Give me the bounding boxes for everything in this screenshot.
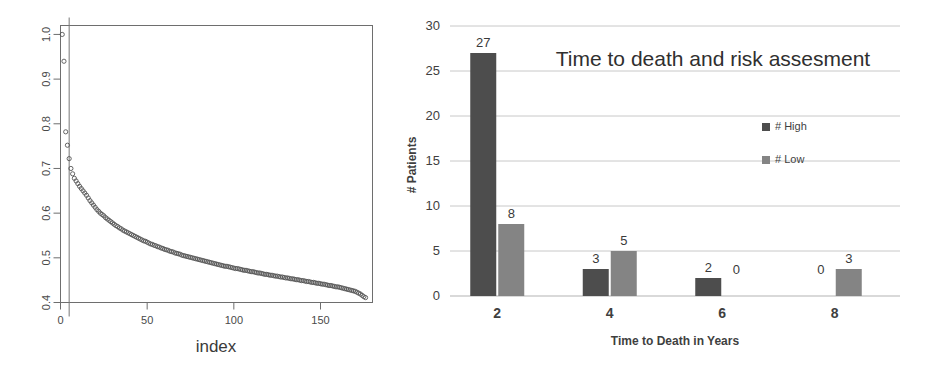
y-tick-label: 0.4 xyxy=(40,295,52,310)
bar-chart-y-axis: 051015202530 xyxy=(426,18,440,303)
y-tick-label: 0.9 xyxy=(40,71,52,86)
y-tick-label: 1.0 xyxy=(40,27,52,42)
bar-value-label: 8 xyxy=(508,206,515,221)
bar-chart-panel: 051015202530 278352003 2468 # Patients T… xyxy=(400,0,935,375)
bar-value-label: 2 xyxy=(705,260,712,275)
y-tick-label: 30 xyxy=(426,18,440,33)
x-tick-label: 0 xyxy=(57,314,63,326)
bar-chart-svg: 051015202530 278352003 2468 # Patients T… xyxy=(400,0,935,375)
y-tick-label: 15 xyxy=(426,153,440,168)
x-category-label: 8 xyxy=(831,305,839,321)
y-tick-label: 0 xyxy=(433,288,440,303)
plot-frame xyxy=(61,26,373,303)
bar xyxy=(695,278,721,296)
bar-chart-x-axis: 2468 xyxy=(493,305,839,321)
index-plot-y-axis: 0.40.50.60.70.80.91.0 xyxy=(40,27,60,310)
y-tick-label: 0.8 xyxy=(40,116,52,131)
data-point xyxy=(62,59,66,63)
bar-chart-ylabel: # Patients xyxy=(405,136,419,193)
index-plot-xlabel: index xyxy=(196,337,237,356)
bar-chart-bars: 278352003 xyxy=(470,35,862,296)
bar-chart-legend: # High# Low xyxy=(762,120,807,165)
x-tick-label: 150 xyxy=(311,314,329,326)
bar-value-label: 0 xyxy=(733,262,740,277)
y-tick-label: 20 xyxy=(426,108,440,123)
x-category-label: 6 xyxy=(718,305,726,321)
bar xyxy=(470,53,496,296)
legend-label: # Low xyxy=(775,153,804,165)
x-tick-label: 50 xyxy=(141,314,153,326)
y-tick-label: 0.6 xyxy=(40,205,52,220)
y-tick-label: 25 xyxy=(426,63,440,78)
index-plot-points xyxy=(60,32,368,299)
bar-chart-xlabel: Time to Death in Years xyxy=(611,334,740,348)
legend-swatch xyxy=(762,123,770,131)
x-category-label: 4 xyxy=(606,305,614,321)
bar-value-label: 3 xyxy=(592,251,599,266)
x-tick-label: 100 xyxy=(225,314,243,326)
bar-chart-title: Time to death and risk assesment xyxy=(556,47,871,70)
index-plot-panel: 0.40.50.60.70.80.91.0 050100150 index xyxy=(0,0,400,375)
legend-swatch xyxy=(762,156,770,164)
bar xyxy=(611,251,637,296)
legend-label: # High xyxy=(775,120,807,132)
data-point xyxy=(71,172,75,176)
x-category-label: 2 xyxy=(493,305,501,321)
bar-value-label: 3 xyxy=(845,251,852,266)
data-point xyxy=(64,130,68,134)
bar-value-label: 27 xyxy=(476,35,490,50)
bar xyxy=(498,224,524,296)
bar xyxy=(583,269,609,296)
y-tick-label: 0.7 xyxy=(40,161,52,176)
two-panel-figure: 0.40.50.60.70.80.91.0 050100150 index 05… xyxy=(0,0,935,375)
bar-value-label: 5 xyxy=(620,233,627,248)
bar-value-label: 0 xyxy=(817,262,824,277)
index-plot-x-axis: 050100150 xyxy=(57,303,329,326)
y-tick-label: 0.5 xyxy=(40,250,52,265)
y-tick-label: 5 xyxy=(433,243,440,258)
bar xyxy=(836,269,862,296)
y-tick-label: 10 xyxy=(426,198,440,213)
index-plot-svg: 0.40.50.60.70.80.91.0 050100150 index xyxy=(0,0,400,375)
